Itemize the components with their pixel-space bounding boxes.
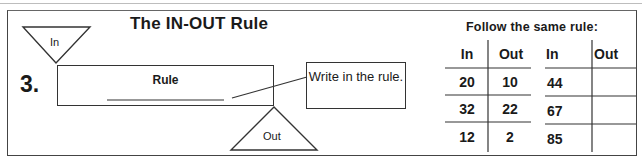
- callout-box: Write in the rule.: [306, 62, 406, 109]
- rule-box-label: Rule: [58, 73, 273, 87]
- table-cell-out-blank[interactable]: [594, 128, 634, 150]
- table-cell-in: 20: [450, 74, 484, 90]
- in-triangle-label: In: [50, 36, 59, 48]
- follow-instruction: Follow the same rule:: [466, 20, 598, 34]
- table-cell-out: 22: [491, 101, 529, 117]
- table-cell-in: 44: [547, 75, 577, 91]
- table-cell-out: 2: [491, 129, 529, 145]
- problem-number: 3.: [20, 71, 39, 98]
- table-cell-in: 67: [547, 103, 577, 119]
- table-header-in: In: [546, 46, 572, 62]
- table-cell-out: 10: [491, 74, 529, 90]
- out-triangle-label: Out: [263, 130, 281, 142]
- table-header-in: In: [452, 46, 482, 62]
- worksheet-title: The IN-OUT Rule: [130, 14, 268, 34]
- table-cell-out-blank[interactable]: [594, 100, 634, 122]
- table-header-out: Out: [594, 46, 634, 62]
- table-cell-in: 32: [450, 101, 484, 117]
- table-cell-out-blank[interactable]: [594, 72, 634, 94]
- rule-box[interactable]: Rule: [57, 65, 274, 106]
- table-cell-in: 85: [547, 131, 577, 147]
- table-header-out: Out: [491, 46, 531, 62]
- out-triangle-icon: [231, 107, 317, 150]
- table-cell-in: 12: [450, 129, 484, 145]
